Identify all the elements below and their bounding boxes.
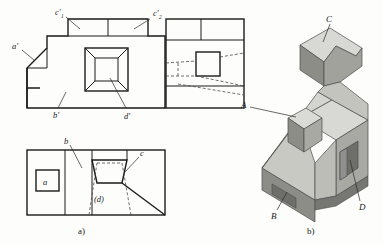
label-C: C: [326, 14, 333, 24]
label-c-prime-2-sub: 2: [159, 14, 162, 20]
label-b: b: [64, 136, 68, 146]
label-D: D: [358, 202, 366, 212]
figure-canvas: .sl{stroke:#1a1a1a;stroke-width:1;fill:n…: [0, 0, 383, 245]
label-c-prime-1: c′: [55, 7, 61, 17]
label-B: B: [271, 211, 277, 221]
label-c-prime-2: c′: [153, 8, 159, 18]
label-a-prime: a′: [12, 41, 18, 51]
caption-a: a): [78, 226, 85, 236]
label-b-prime: b′: [53, 110, 59, 120]
label-c-prime-1-sub: 1: [61, 13, 64, 19]
label-A: A: [240, 100, 247, 110]
label-d-paren: (d): [94, 194, 104, 204]
caption-b: b): [307, 226, 315, 236]
label-c: c: [140, 148, 144, 158]
iso-cavity-d-side: [340, 148, 347, 180]
label-a: a: [43, 177, 47, 187]
label-d-prime: d′: [124, 111, 130, 121]
